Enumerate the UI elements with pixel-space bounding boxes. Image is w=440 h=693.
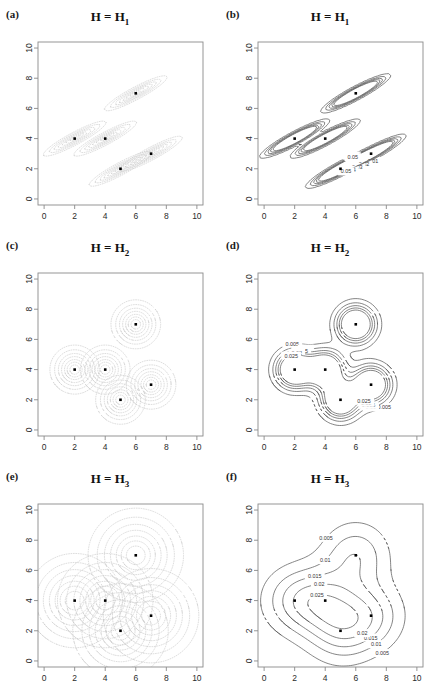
kernel-contour <box>121 358 122 360</box>
density-contour <box>320 415 322 417</box>
density-contour <box>331 413 336 415</box>
kernel-contour <box>153 314 154 316</box>
kernel-contour <box>93 657 95 659</box>
density-contour <box>280 378 282 380</box>
kernel-contour <box>83 364 84 366</box>
kernel-contour <box>52 622 54 624</box>
density-contour <box>321 649 325 651</box>
kernel-contour <box>87 387 90 389</box>
density-contour <box>295 644 298 646</box>
density-contour <box>348 364 350 366</box>
density-contour <box>333 626 342 628</box>
kernel-contour <box>132 391 133 393</box>
density-contour <box>343 369 344 371</box>
kernel-contour <box>65 618 73 620</box>
kernel-contour <box>126 327 127 329</box>
kernel-contour <box>128 331 131 333</box>
contour-group: 0.0050.0050.010.010.0150.0150.020.020.02… <box>269 299 397 426</box>
density-contour <box>314 613 317 615</box>
y-tick-label: 10 <box>244 43 254 53</box>
plot-box <box>38 273 203 436</box>
x-tick-label: 8 <box>384 673 389 683</box>
density-contour <box>313 624 316 626</box>
density-contour <box>339 364 340 366</box>
density-contour <box>316 615 319 617</box>
density-contour <box>346 338 351 340</box>
data-point <box>324 368 327 371</box>
y-tick-label: 0 <box>24 196 34 201</box>
kernel-contour <box>65 602 66 604</box>
kernel-contour <box>46 626 48 628</box>
kernel-contour <box>61 618 62 620</box>
density-contour <box>388 547 389 549</box>
density-contour <box>287 613 289 615</box>
density-contour <box>337 306 371 327</box>
kernel-contour <box>105 657 110 659</box>
density-contour <box>403 602 404 606</box>
density-contour <box>318 413 320 415</box>
kernel-contour <box>118 626 130 640</box>
kernel-contour <box>164 542 166 546</box>
kernel-contour <box>62 615 65 617</box>
kernel-contour <box>61 384 64 386</box>
density-contour <box>289 615 291 617</box>
density-contour <box>314 140 398 184</box>
kernel-contour <box>96 591 113 604</box>
density-contour <box>315 657 319 659</box>
kernel-contour <box>111 584 114 586</box>
x-tick-label: 6 <box>353 211 358 221</box>
density-contour <box>373 316 374 318</box>
kernel-contour <box>48 640 52 642</box>
data-point <box>150 152 153 155</box>
data-point <box>134 92 137 95</box>
kernel-contour <box>151 318 152 320</box>
kernel-contour <box>119 564 120 566</box>
kernel-contour <box>134 402 137 404</box>
kernel-contour <box>68 367 91 386</box>
density-contour <box>391 604 392 606</box>
kernel-contour <box>48 618 50 620</box>
density-contour <box>292 391 314 393</box>
panel-c: (c)H = H202468100246810 <box>0 231 220 462</box>
kernel-contour <box>179 536 180 538</box>
density-contour <box>301 615 304 617</box>
kernel-contour <box>101 371 103 373</box>
data-point <box>354 92 357 95</box>
density-contour <box>291 618 293 620</box>
kernel-contour <box>58 354 85 374</box>
kernel-contour <box>127 567 131 569</box>
density-contour <box>351 607 354 609</box>
density-contour <box>376 316 378 323</box>
density-contour <box>285 389 292 391</box>
x-tick-label: 8 <box>164 673 169 683</box>
density-contour <box>379 604 380 606</box>
kernel-contour <box>144 387 145 389</box>
kernel-contour <box>193 593 194 595</box>
y-tick-label: 4 <box>24 367 34 372</box>
y-tick-label: 4 <box>244 598 254 603</box>
kernel-contour <box>97 380 102 382</box>
kernel-contour <box>93 391 99 393</box>
kernel-contour <box>114 638 118 640</box>
density-contour <box>297 633 300 635</box>
kernel-contour <box>123 593 124 595</box>
kernel-contour <box>124 340 128 342</box>
x-tick-label: 10 <box>192 211 202 221</box>
density-contour <box>342 615 358 628</box>
kernel-contour <box>75 609 77 613</box>
y-tick-label: 0 <box>244 196 254 201</box>
panel-e: (e)H = H302468100246810 <box>0 462 220 693</box>
y-tick-label: 0 <box>244 427 254 432</box>
kernel-contour <box>119 651 122 653</box>
density-contour <box>377 578 378 580</box>
kernel-contour <box>95 671 99 673</box>
data-point <box>370 614 373 617</box>
density-contour <box>386 369 388 371</box>
kernel-contour <box>68 595 90 615</box>
density-contour <box>316 391 318 393</box>
x-tick-label: 8 <box>384 442 389 452</box>
y-tick-label: 10 <box>244 274 254 284</box>
density-contour <box>281 373 282 375</box>
density-contour <box>393 371 394 373</box>
density-contour <box>278 633 281 635</box>
